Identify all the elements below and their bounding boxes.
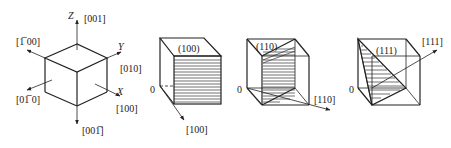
plane-111-panel: (111) 0 [111]: [349, 36, 443, 105]
origin-label: 0: [237, 84, 242, 95]
direction-100-arrow: [160, 86, 184, 120]
plane-100-hatch: [174, 60, 221, 102]
direction-00neg1-label: [001̅]: [82, 125, 104, 136]
direction-0neg10-label: [01̅ 0]: [16, 94, 40, 105]
plane-100-panel: (100) 0 [100]: [150, 38, 221, 135]
direction-100-label: [100]: [116, 103, 138, 114]
y-axis-label: Y: [118, 41, 125, 52]
direction-100-label: [100]: [186, 124, 208, 135]
y-axis-arrow: [107, 52, 121, 58]
origin-label: 0: [150, 84, 155, 95]
neg-y-axis-arrow: [27, 80, 52, 90]
axes-cube-panel: Z [001] [1̅ 00] Y [010] [01̅ 0] X [100] …: [16, 10, 142, 136]
neg-x-axis-arrow: [27, 50, 45, 58]
reference-cube: [45, 44, 107, 106]
crystal-planes-figure: Z [001] [1̅ 00] Y [010] [01̅ 0] X [100] …: [0, 0, 451, 148]
plane-111-label: (111): [376, 45, 397, 57]
plane-110-panel: (110) 0 [110]: [237, 39, 335, 110]
x-axis-label: X: [116, 86, 124, 97]
origin-label: 0: [349, 84, 354, 95]
direction-001-label: [001]: [84, 13, 106, 24]
plane-110-label: (110): [256, 41, 277, 53]
direction-010-label: [010]: [120, 63, 142, 74]
plane-100-label: (100): [178, 43, 200, 55]
z-axis-label: Z: [68, 10, 74, 21]
direction-neg100-label: [1̅ 00]: [16, 36, 40, 47]
direction-110-label: [110]: [314, 94, 335, 105]
direction-111-label: [111]: [422, 36, 443, 47]
